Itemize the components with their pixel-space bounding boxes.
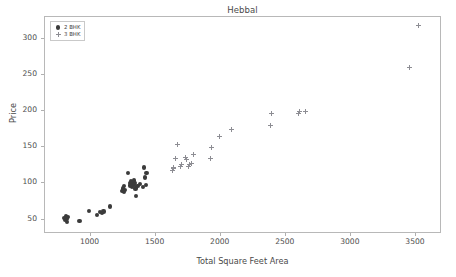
data-point bbox=[191, 152, 196, 157]
y-axis-tick-label: 250 bbox=[3, 69, 37, 78]
chart-title: Hebbal bbox=[44, 5, 441, 15]
x-axis-tick bbox=[220, 233, 221, 236]
data-point bbox=[66, 215, 70, 219]
data-points-layer bbox=[45, 17, 440, 232]
legend-item-2bhk: 2 BHK bbox=[54, 24, 80, 31]
data-point bbox=[269, 111, 274, 116]
x-axis-tick bbox=[285, 233, 286, 236]
data-point bbox=[77, 219, 81, 223]
data-point bbox=[143, 175, 147, 179]
data-point bbox=[134, 194, 138, 198]
y-axis-tick bbox=[41, 110, 44, 111]
data-point bbox=[268, 123, 273, 128]
legend-label-3bhk: 3 BHK bbox=[63, 32, 80, 38]
y-axis-tick-label: 100 bbox=[3, 177, 37, 186]
data-point bbox=[87, 209, 91, 213]
x-axis-tick-label: 2000 bbox=[195, 237, 245, 246]
data-point bbox=[175, 142, 180, 147]
y-axis-tick bbox=[41, 146, 44, 147]
x-axis-tick bbox=[155, 233, 156, 236]
y-axis-tick bbox=[41, 182, 44, 183]
y-axis-tick-label: 300 bbox=[3, 33, 37, 42]
legend-marker-plus-icon bbox=[54, 31, 63, 38]
data-point bbox=[297, 109, 302, 114]
y-axis-label: Price bbox=[8, 83, 18, 143]
figure-canvas: Hebbal 2 BHK 3 BHK 100015002000250030003… bbox=[0, 0, 456, 277]
data-point bbox=[65, 220, 69, 224]
data-point bbox=[142, 165, 146, 169]
legend-item-3bhk: 3 BHK bbox=[54, 31, 80, 38]
data-point bbox=[126, 171, 130, 175]
x-axis-tick bbox=[415, 233, 416, 236]
y-axis-tick bbox=[41, 219, 44, 220]
y-axis-tick bbox=[41, 38, 44, 39]
x-axis-tick bbox=[350, 233, 351, 236]
data-point bbox=[173, 156, 178, 161]
y-axis-tick bbox=[41, 74, 44, 75]
data-point bbox=[416, 23, 421, 28]
chart-legend: 2 BHK 3 BHK bbox=[50, 21, 85, 41]
plot-axes-area: 2 BHK 3 BHK bbox=[44, 16, 441, 233]
y-axis-tick-label: 50 bbox=[3, 214, 37, 223]
data-point bbox=[144, 183, 148, 187]
x-axis-tick-label: 3000 bbox=[325, 237, 375, 246]
data-point bbox=[208, 156, 213, 161]
data-point bbox=[189, 161, 194, 166]
legend-label-2bhk: 2 BHK bbox=[63, 25, 80, 31]
x-axis-tick-label: 3500 bbox=[390, 237, 440, 246]
data-point bbox=[101, 209, 105, 213]
data-point bbox=[303, 109, 308, 114]
legend-marker-circle-icon bbox=[54, 24, 63, 31]
x-axis-tick-label: 1000 bbox=[65, 237, 115, 246]
data-point bbox=[407, 65, 412, 70]
data-point bbox=[123, 188, 127, 192]
data-point bbox=[108, 204, 112, 208]
data-point bbox=[144, 171, 148, 175]
x-axis-label: Total Square Feet Area bbox=[44, 256, 441, 266]
data-point bbox=[209, 145, 214, 150]
data-point bbox=[217, 134, 222, 139]
data-point bbox=[229, 127, 234, 132]
x-axis-tick-label: 1500 bbox=[130, 237, 180, 246]
x-axis-tick-label: 2500 bbox=[260, 237, 310, 246]
data-point bbox=[179, 162, 184, 167]
x-axis-tick bbox=[90, 233, 91, 236]
data-point bbox=[171, 165, 176, 170]
